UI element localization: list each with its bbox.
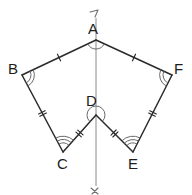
axis-bottom-marker-icon — [91, 188, 98, 194]
polygon-edges-group — [22, 40, 172, 152]
vertex-label-f: F — [174, 60, 183, 77]
vertex-angle-arcs-group — [26, 44, 168, 146]
axis-top-marker-icon — [90, 10, 98, 17]
vertex-label-b: B — [8, 60, 18, 77]
vertex-label-c: C — [57, 155, 68, 172]
angle-arc-c — [59, 143, 69, 145]
vertex-label-a: A — [88, 20, 98, 37]
vertex-label-e: E — [128, 155, 138, 172]
vertex-label-d: D — [86, 92, 97, 109]
angle-arc-e — [127, 143, 137, 146]
edge-ef — [133, 75, 172, 152]
edge-bc — [22, 75, 63, 152]
angle-arc-c — [57, 140, 71, 143]
geometry-figure: ABCDEF — [0, 0, 192, 195]
edge-cd — [63, 115, 96, 152]
edge-de — [96, 115, 133, 152]
edge-tick-marks-group — [39, 54, 157, 137]
figure-canvas: ABCDEF — [0, 0, 192, 195]
